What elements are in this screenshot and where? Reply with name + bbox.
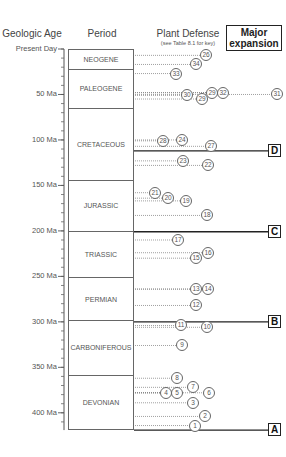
defense-marker-17: 17 [172,234,184,246]
period-label: TRIASSIC [85,251,117,258]
axis-label: 150 Ma [0,180,57,189]
defense-marker-5: 5 [171,387,183,399]
period-label: CARBONIFEROUS [70,344,131,351]
period-paleogene: PALEOGENE [68,70,134,109]
period-carboniferous: CARBONIFEROUS [68,321,134,376]
axis-label: 50 Ma [0,89,57,98]
period-cretaceous: CRETACEOUS [68,109,134,181]
axis-label: 350 Ma [0,362,57,371]
defense-marker-13: 13 [190,283,202,295]
axis-label: 300 Ma [0,317,57,326]
defense-marker-29: 29 [196,93,208,105]
axis-label: 100 Ma [0,135,57,144]
axis-label: 250 Ma [0,271,57,280]
period-jurassic: JURASSIC [68,181,134,232]
expansion-label-a: A [268,423,281,436]
period-label: PERMIAN [85,296,117,303]
defense-marker-6: 6 [203,387,215,399]
defense-marker-14: 14 [202,283,214,295]
defense-marker-1: 1 [189,420,201,432]
period-label: DEVONIAN [83,399,120,406]
defense-marker-21: 21 [149,187,161,199]
period-neogene: NEOGENE [68,49,134,70]
axis-label: Present Day [0,44,57,53]
expansion-label-c: C [268,225,281,238]
expansion-label-b: B [268,315,281,328]
defense-marker-23: 23 [177,155,189,167]
period-triassic: TRIASSIC [68,232,134,278]
axis-label: 200 Ma [0,226,57,235]
expansion-label-d: D [268,144,281,157]
defense-marker-24: 24 [176,134,188,146]
defense-marker-3: 3 [187,397,199,409]
period-label: JURASSIC [84,202,119,209]
defense-marker-32: 32 [217,87,229,99]
period-permian: PERMIAN [68,278,134,321]
period-label: NEOGENE [83,56,118,63]
period-devonian: DEVONIAN [68,376,134,431]
defense-marker-19: 19 [180,195,192,207]
period-label: PALEOGENE [80,85,123,92]
period-label: CRETACEOUS [77,141,125,148]
defense-marker-28: 28 [157,135,169,147]
defense-marker-33: 33 [170,68,182,80]
defense-marker-16: 16 [202,247,214,259]
axis-label: 400 Ma [0,408,57,417]
